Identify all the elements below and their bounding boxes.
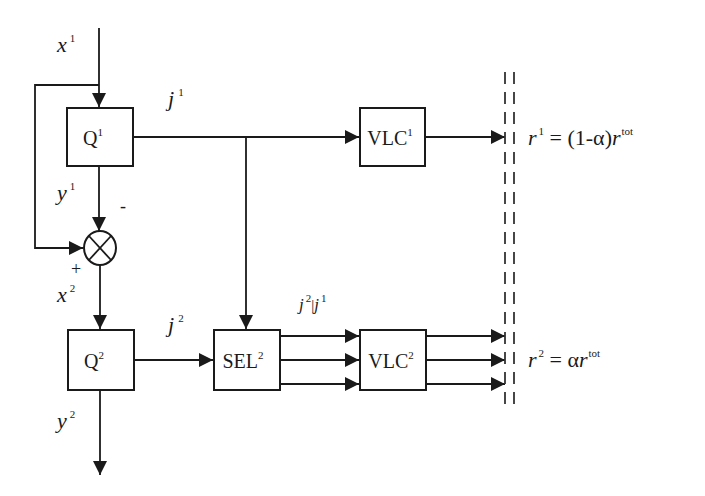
sel2-block: SEL2 — [214, 330, 280, 390]
svg-text:SEL2: SEL2 — [222, 349, 263, 372]
summer-node — [84, 231, 116, 265]
x2-label: x2 — [56, 282, 75, 307]
y1-label: y1 — [55, 180, 75, 205]
vlc2-block: VLC2 — [360, 330, 426, 390]
j1-label: j1 — [165, 86, 184, 111]
j2-label: j2 — [165, 312, 184, 337]
x1-label: x1 — [56, 32, 75, 57]
r2-equation: r2 = αrtot — [528, 347, 600, 372]
svg-text:VLC2: VLC2 — [368, 349, 414, 372]
two-layer-coder-diagram: Q1 - + Q2 VLC1 SEL2 VLC2 — [0, 0, 705, 496]
svg-text:VLC1: VLC1 — [367, 126, 413, 149]
vlc2-label: VLC — [368, 350, 408, 372]
q1-label: Q — [83, 127, 98, 149]
r1-equation: r1 = (1-α)rtot — [528, 125, 633, 150]
vlc1-label: VLC — [367, 127, 407, 149]
q2-block: Q2 — [68, 330, 134, 390]
vlc1-block: VLC1 — [360, 108, 425, 166]
plus-sign: + — [71, 259, 81, 279]
q2-label: Q — [84, 350, 99, 372]
y2-label: y2 — [55, 408, 75, 433]
minus-sign: - — [120, 196, 126, 216]
j2-given-j1-label: j2|j1 — [297, 292, 326, 314]
q1-block: Q1 — [67, 108, 133, 166]
sel2-label: SEL — [222, 350, 258, 372]
